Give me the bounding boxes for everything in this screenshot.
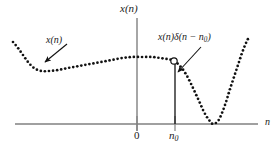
curve-dot (229, 88, 232, 91)
curve-dot (197, 98, 200, 101)
curve-dot (52, 69, 55, 72)
curve-dot (14, 44, 17, 47)
curve-dot (182, 68, 185, 71)
curve-dot (192, 86, 195, 89)
curve-dot (137, 56, 140, 59)
curve-dot (60, 68, 63, 71)
curve-dot (36, 68, 39, 71)
curve-dot (198, 101, 201, 104)
curve-dot (145, 56, 148, 59)
curve-dot (120, 57, 123, 60)
curve-dot (236, 65, 239, 68)
curve-dot (226, 96, 229, 99)
curve-dot (157, 56, 160, 59)
curve-dot (133, 56, 136, 59)
curve-dot (19, 50, 22, 53)
curve-dot (68, 66, 71, 69)
curve-dot (217, 119, 220, 122)
curve-dot (227, 92, 230, 95)
curve-dot (224, 104, 227, 107)
curve-dot (206, 116, 209, 119)
y-axis-label: x(n) (120, 3, 138, 14)
curve-dot (44, 70, 47, 73)
curve-dot (243, 45, 246, 48)
curve-dot (153, 56, 156, 59)
sampled-annotation-label: x(n)δ(n − n0) (158, 32, 211, 44)
curve-dot (72, 66, 75, 69)
curve-dot (204, 112, 207, 115)
sample-markers (171, 58, 177, 64)
n0-subscript: 0 (175, 134, 179, 143)
curve-dot (225, 100, 228, 103)
curve-dot (245, 41, 248, 44)
curve-dot (232, 76, 235, 79)
sampled-annotation-arrow (178, 47, 201, 72)
curve-dot (211, 122, 214, 125)
curve-dot (26, 60, 29, 63)
curve-dot (188, 79, 191, 82)
curve-dot (230, 84, 233, 87)
origin-tick-label: 0 (134, 130, 140, 141)
curve-dot (195, 94, 198, 97)
curve-dot (108, 59, 111, 62)
x-axis-label: n (265, 117, 270, 127)
curve-dot (64, 67, 67, 70)
n0-tick-label: n0 (169, 130, 178, 143)
curve-dot (76, 65, 79, 68)
curve-dot (128, 56, 131, 59)
curve-dot (56, 69, 59, 72)
curve-dot (221, 111, 224, 114)
curve-dot (17, 47, 20, 50)
curve-dot (12, 41, 15, 44)
curve-dot (161, 57, 164, 60)
curve-dot (124, 56, 127, 59)
curve-dot (219, 115, 222, 118)
curve-dot (202, 109, 205, 112)
curve-dot (84, 64, 87, 67)
curve-dot (222, 107, 225, 110)
curve-dot (32, 66, 35, 69)
curve-dot (48, 70, 51, 73)
curve-dot (100, 61, 103, 64)
signal-curve (12, 38, 250, 125)
curve-dot (186, 75, 189, 78)
curve-dot (22, 54, 25, 57)
curve-dot (184, 72, 187, 75)
sampled-annotation-prefix: x(n)δ(n − n (158, 31, 204, 42)
curve-dot (242, 49, 245, 52)
curve-dot (238, 61, 241, 64)
sampled-value-marker (171, 58, 177, 64)
curve-dot (80, 64, 83, 67)
curve-dot (193, 90, 196, 93)
curve-dot (190, 83, 193, 86)
curve-dot (112, 58, 115, 61)
curve-dot (231, 80, 234, 83)
signal-annotation-label: x(n) (46, 35, 62, 45)
curve-dot (165, 58, 168, 61)
signal-sampling-figure: x(n) x(n) x(n)δ(n − n0) 0 n0 n (0, 0, 279, 155)
curve-dot (39, 70, 42, 73)
curve-dot (116, 57, 119, 60)
curve-dot (239, 57, 242, 60)
curve-dot (215, 122, 218, 125)
curve-dot (24, 57, 27, 60)
curve-dot (88, 63, 91, 66)
signal-annotation-arrow (45, 44, 67, 62)
curve-dot (247, 38, 250, 41)
curve-dot (104, 60, 107, 63)
curve-dot (240, 53, 243, 56)
curve-dot (235, 68, 238, 71)
curve-dot (92, 62, 95, 65)
curve-dot (208, 119, 211, 122)
curve-dot (234, 72, 237, 75)
curve-dot (96, 61, 99, 64)
curve-dot (141, 56, 144, 59)
curve-dot (29, 63, 32, 66)
curve-dot (200, 105, 203, 108)
sampled-annotation-suffix: ) (207, 31, 210, 42)
curve-dot (149, 56, 152, 59)
